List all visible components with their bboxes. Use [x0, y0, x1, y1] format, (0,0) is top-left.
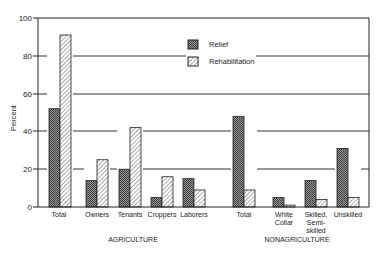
category-label: skilled	[306, 227, 326, 234]
category-label: Skilled,	[305, 211, 328, 218]
bar-relief	[273, 198, 284, 207]
bar-relief	[119, 169, 130, 207]
y-axis-label: Percent	[9, 104, 18, 131]
y-tick-label: 100	[19, 14, 33, 23]
bar-rehabilitation	[162, 177, 173, 207]
bar-rehabilitation	[130, 128, 141, 207]
y-tick-label: 0	[28, 203, 33, 212]
category-label: Laborers	[180, 211, 208, 218]
y-tick-label: 20	[23, 165, 32, 174]
bar-relief	[151, 198, 162, 207]
bar-relief	[183, 179, 194, 207]
bar-relief	[305, 181, 316, 207]
bar-relief	[49, 109, 60, 207]
gridlines	[38, 56, 369, 169]
bar-relief	[337, 148, 348, 207]
legend: Relief Rehabilitation	[186, 36, 256, 70]
category-label: Total	[52, 211, 67, 218]
category-label: Unskilled	[334, 211, 363, 218]
legend-swatch-rehabilitation	[188, 57, 198, 66]
legend-label-relief: Relief	[209, 40, 229, 49]
category-label: Total	[237, 211, 252, 218]
legend-label-rehabilitation: Rehabilitation	[209, 57, 254, 66]
category-label: Owners	[85, 211, 110, 218]
category-label: White	[275, 211, 293, 218]
bar-rehabilitation	[244, 190, 255, 207]
bar-rehabilitation	[97, 160, 108, 207]
group-label-agriculture: AGRICULTURE	[108, 236, 158, 243]
y-axis: 0 20 40 60 80 100 Percent	[9, 14, 38, 212]
category-label: Semi-	[307, 219, 326, 226]
group-label-nonagriculture: NONAGRICULTURE	[264, 236, 330, 243]
category-label: Tenants	[118, 211, 143, 218]
y-tick-label: 60	[23, 90, 32, 99]
bar-rehabilitation	[194, 190, 205, 207]
legend-swatch-relief	[188, 40, 198, 49]
y-tick-label: 40	[23, 127, 32, 136]
category-label: Croppers	[148, 211, 177, 219]
bar-chart: 0 20 40 60 80 100 Percent Relief Rehabil…	[0, 0, 385, 257]
bar-rehabilitation	[348, 198, 359, 207]
bar-rehabilitation	[60, 35, 71, 207]
y-tick-label: 80	[23, 52, 32, 61]
x-axis-labels: Total Owners Tenants Croppers Laborers T…	[52, 211, 363, 243]
bar-relief	[233, 116, 244, 207]
category-label: Collar	[275, 219, 294, 226]
bar-rehabilitation	[316, 199, 327, 207]
bar-relief	[86, 181, 97, 207]
